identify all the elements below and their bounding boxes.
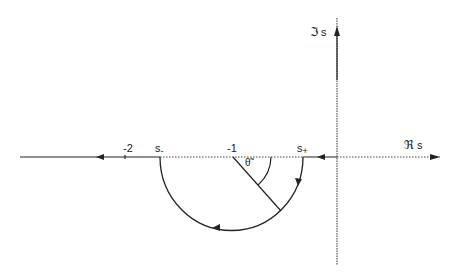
point-s-plus-label: s+	[297, 143, 308, 156]
tick-label-minus-2: -2	[123, 143, 133, 154]
root-locus-diagram	[0, 0, 456, 277]
tick-label-minus-1: -1	[227, 143, 237, 154]
real-axis-arrow	[430, 154, 440, 160]
arc-arrow-bottom	[212, 224, 220, 231]
arrow-left-branch	[96, 154, 104, 160]
radius-line	[233, 157, 281, 211]
angle-arc	[258, 157, 271, 185]
arrow-right-branch	[317, 154, 325, 160]
imag-axis-label: ℑ s	[310, 26, 327, 38]
point-s-minus-label: s-	[155, 143, 164, 156]
imag-axis-arrow	[334, 26, 340, 36]
complex-branch-arc	[160, 157, 303, 231]
arc-arrow-right	[295, 178, 302, 186]
real-axis-label: ℜ s	[404, 139, 423, 151]
angle-theta-label: θ̃	[245, 158, 251, 168]
